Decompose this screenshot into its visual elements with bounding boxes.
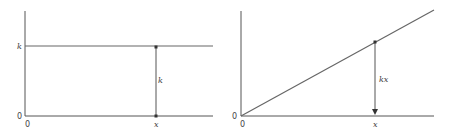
diagram-canvas: k 0 0 x k 0 0 x kx bbox=[0, 0, 449, 132]
right-chart: 0 0 x kx bbox=[232, 10, 434, 129]
right-arrow-label: kx bbox=[379, 75, 389, 84]
left-y-label-k: k bbox=[17, 42, 22, 51]
right-y-label-zero: 0 bbox=[232, 112, 237, 121]
right-x-label-x: x bbox=[373, 120, 378, 129]
right-linear-line bbox=[241, 10, 434, 116]
left-y-label-zero: 0 bbox=[17, 112, 22, 121]
left-x-label-zero: 0 bbox=[25, 120, 30, 129]
left-arrow-label: k bbox=[158, 76, 163, 85]
left-x-label-x: x bbox=[154, 120, 159, 129]
right-x-label-zero: 0 bbox=[240, 120, 245, 129]
left-chart: k 0 0 x k bbox=[17, 11, 213, 129]
